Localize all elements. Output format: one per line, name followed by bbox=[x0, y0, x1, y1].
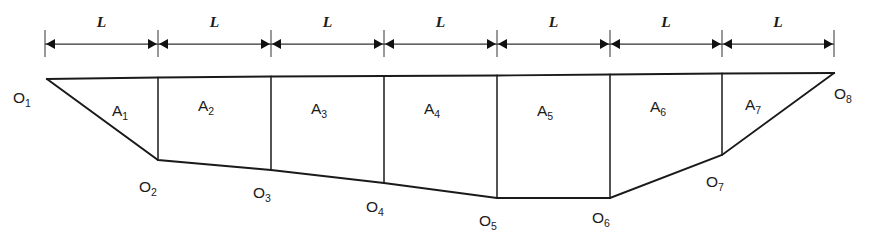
panel-label-base-1: A bbox=[112, 102, 123, 119]
panel-label-base-6: A bbox=[650, 98, 661, 115]
arrowhead-left-7 bbox=[723, 39, 732, 49]
panel-area-labels: A1A2A3A4A5A6A7 bbox=[112, 96, 761, 122]
node-label-subscript-7: 7 bbox=[718, 181, 724, 193]
dimension-label-2: L bbox=[209, 13, 219, 30]
dimension-label-6: L bbox=[660, 13, 670, 30]
dimension-label-3: L bbox=[322, 13, 332, 30]
panel-label-subscript-4: 4 bbox=[434, 108, 440, 120]
panel-label-1: A1 bbox=[112, 102, 128, 122]
node-label-8: O8 bbox=[834, 85, 852, 105]
node-label-6: O6 bbox=[592, 209, 610, 229]
panel-label-3: A3 bbox=[311, 100, 327, 120]
panel-label-5: A5 bbox=[537, 102, 553, 122]
node-label-base-1: O bbox=[13, 89, 25, 106]
node-label-1: O1 bbox=[13, 89, 31, 109]
node-label-base-2: O bbox=[139, 178, 151, 195]
dimension-label-7: L bbox=[772, 13, 782, 30]
panel-label-subscript-1: 1 bbox=[122, 110, 128, 122]
panel-label-2: A2 bbox=[198, 97, 214, 117]
panel-label-subscript-7: 7 bbox=[755, 104, 761, 116]
node-label-base-6: O bbox=[592, 209, 604, 226]
truss-vertical-members bbox=[158, 74, 722, 199]
panel-label-6: A6 bbox=[650, 98, 666, 118]
node-label-subscript-1: 1 bbox=[25, 97, 31, 109]
panel-label-base-3: A bbox=[311, 100, 322, 117]
node-label-3: O3 bbox=[253, 184, 271, 204]
arrowhead-right-3 bbox=[374, 39, 383, 49]
arrowhead-right-2 bbox=[261, 39, 270, 49]
panel-label-base-5: A bbox=[537, 102, 548, 119]
dimension-labels: LLLLLLL bbox=[96, 13, 783, 30]
arrowhead-right-7 bbox=[824, 39, 833, 49]
arrowhead-left-3 bbox=[272, 39, 281, 49]
arrowhead-left-6 bbox=[611, 39, 620, 49]
node-label-subscript-3: 3 bbox=[265, 192, 271, 204]
node-label-subscript-8: 8 bbox=[846, 93, 852, 105]
node-label-5: O5 bbox=[479, 212, 497, 232]
dimension-label-5: L bbox=[548, 13, 558, 30]
node-label-7: O7 bbox=[706, 173, 724, 193]
node-label-4: O4 bbox=[366, 198, 384, 218]
node-label-base-7: O bbox=[706, 173, 718, 190]
truss-svg-canvas: LLLLLLL A1A2A3A4A5A6A7 O1O2O3O4O5O6O7O8 bbox=[0, 0, 890, 249]
panel-label-base-4: A bbox=[424, 100, 435, 117]
arrowhead-right-6 bbox=[712, 39, 721, 49]
arrowhead-right-4 bbox=[487, 39, 496, 49]
dimension-label-4: L bbox=[435, 13, 445, 30]
node-label-subscript-2: 2 bbox=[151, 186, 157, 198]
arrowhead-left-1 bbox=[46, 39, 55, 49]
truss-diagram: LLLLLLL A1A2A3A4A5A6A7 O1O2O3O4O5O6O7O8 bbox=[0, 0, 890, 249]
arrowhead-left-4 bbox=[385, 39, 394, 49]
panel-label-7: A7 bbox=[745, 96, 761, 116]
dimension-label-1: L bbox=[96, 13, 106, 30]
panel-label-subscript-6: 6 bbox=[660, 106, 666, 118]
panel-label-base-2: A bbox=[198, 97, 209, 114]
arrowhead-right-1 bbox=[148, 39, 157, 49]
node-label-2: O2 bbox=[139, 178, 157, 198]
arrowhead-right-5 bbox=[600, 39, 609, 49]
panel-label-subscript-3: 3 bbox=[321, 108, 327, 120]
node-label-base-3: O bbox=[253, 184, 265, 201]
node-label-base-4: O bbox=[366, 198, 378, 215]
node-label-subscript-4: 4 bbox=[378, 206, 384, 218]
node-label-base-5: O bbox=[479, 212, 491, 229]
node-label-subscript-5: 5 bbox=[491, 220, 497, 232]
arrowhead-left-5 bbox=[498, 39, 507, 49]
panel-label-4: A4 bbox=[424, 100, 440, 120]
arrowhead-left-2 bbox=[159, 39, 168, 49]
node-label-subscript-6: 6 bbox=[604, 217, 610, 229]
panel-label-base-7: A bbox=[745, 96, 756, 113]
panel-label-subscript-5: 5 bbox=[547, 110, 553, 122]
top-chord bbox=[47, 73, 834, 79]
node-label-base-8: O bbox=[834, 85, 846, 102]
panel-label-subscript-2: 2 bbox=[208, 105, 214, 117]
